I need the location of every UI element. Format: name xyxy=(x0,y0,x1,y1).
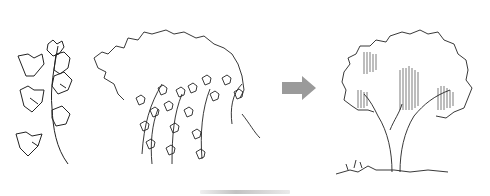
ivy-vine-sketch xyxy=(10,38,80,168)
right-arrow-icon xyxy=(282,76,318,100)
figure-caption xyxy=(200,190,290,194)
tree-sketch xyxy=(334,12,484,184)
ivy-canopy-sketch xyxy=(92,14,262,184)
